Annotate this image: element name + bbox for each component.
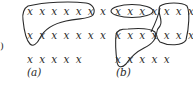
panel-a-enclosure bbox=[23, 2, 94, 45]
enclosure-curves bbox=[0, 0, 193, 88]
panel-b-enclosure-1 bbox=[111, 5, 153, 18]
panel-b-enclosure-2 bbox=[157, 3, 189, 45]
panel-b-enclosure-3 bbox=[116, 28, 156, 66]
